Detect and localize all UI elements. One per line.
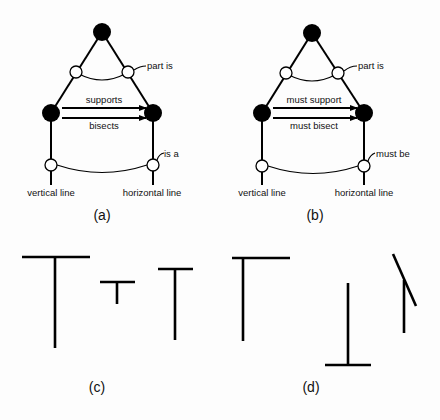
leaf-horizontal-line: horizontal line (123, 187, 182, 198)
leader-line-must-be (368, 153, 375, 161)
caption-d: (d) (302, 379, 319, 395)
node-left (253, 104, 271, 122)
panel-d: (d) (232, 254, 416, 395)
caption-b: (b) (306, 207, 323, 223)
caption-a: (a) (93, 207, 110, 223)
near-miss-off-center-stem (232, 258, 290, 341)
leaf-horizontal-line: horizontal line (335, 187, 394, 198)
near-miss-inverted-t (325, 283, 371, 365)
open-circle-lower-left (45, 159, 57, 171)
figure-canvas: part is supports bisects is a vertical l… (0, 0, 440, 420)
part-is-arc (289, 75, 335, 81)
label-part-is: part is (358, 60, 384, 71)
t-shape-medium (158, 269, 193, 340)
label-supports: supports (86, 94, 123, 105)
node-top (303, 24, 321, 42)
open-circle-lower-right (358, 160, 370, 172)
open-circle-upper-left (280, 67, 292, 79)
t-shape-large (22, 257, 90, 348)
leader-line-part-is (134, 66, 146, 70)
semantic-network-figure: part is supports bisects is a vertical l… (0, 0, 440, 420)
near-miss-tilted-bar (393, 254, 416, 333)
node-left (42, 104, 60, 122)
part-is-arc (79, 74, 125, 80)
open-circle-upper-left (70, 66, 82, 78)
panel-c: (c) (22, 257, 193, 395)
label-must-be: must be (376, 148, 410, 159)
t-shape-small (100, 282, 135, 304)
open-circle-upper-right (122, 66, 134, 78)
leader-line-part-is (344, 66, 357, 71)
caption-c: (c) (89, 379, 105, 395)
open-circle-upper-right (332, 67, 344, 79)
node-top (93, 23, 111, 41)
label-is-a: is a (164, 148, 180, 159)
panel-b: part is must support must bisect must be… (238, 24, 410, 223)
panel-a: part is supports bisects is a vertical l… (27, 23, 181, 223)
open-circle-lower-left (256, 160, 268, 172)
label-part-is: part is (147, 60, 173, 71)
node-right (355, 104, 373, 122)
is-a-arc (57, 165, 147, 173)
label-must-support: must support (287, 94, 342, 105)
leaf-vertical-line: vertical line (238, 187, 286, 198)
leaf-vertical-line: vertical line (27, 187, 75, 198)
node-right (144, 104, 162, 122)
leader-line-is-a (157, 153, 164, 160)
open-circle-lower-right (147, 159, 159, 171)
label-bisects: bisects (89, 120, 119, 131)
must-be-arc (268, 166, 358, 174)
label-must-bisect: must bisect (290, 120, 338, 131)
